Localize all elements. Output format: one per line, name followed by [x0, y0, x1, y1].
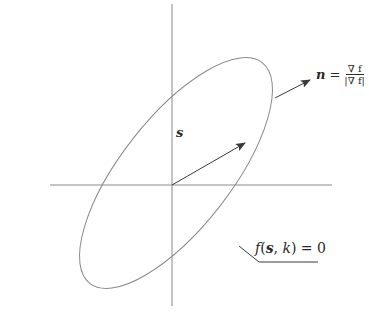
label-s: s — [176, 125, 183, 140]
diagram-canvas — [0, 0, 369, 323]
vector-n-arrow — [275, 80, 310, 98]
label-normal: n = ∇ f |∇ f| — [316, 63, 366, 86]
label-equals: = — [329, 67, 340, 82]
label-arg-k: k — [282, 240, 290, 256]
fraction-denominator: |∇ f| — [343, 75, 366, 86]
label-n: n — [316, 67, 325, 82]
fraction-numerator: ∇ f — [346, 63, 364, 75]
label-arg-s: s — [266, 240, 274, 256]
label-curve-equation: f(s, k) = 0 — [255, 240, 326, 256]
vector-s-arrow — [172, 143, 245, 185]
label-rest: ) = 0 — [291, 240, 326, 256]
level-set-ellipse — [46, 29, 305, 317]
normal-fraction: ∇ f |∇ f| — [343, 63, 366, 86]
